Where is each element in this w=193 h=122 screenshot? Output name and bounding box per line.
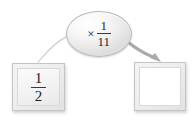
input-to-operator-connector (38, 37, 66, 62)
operator-fraction-numerator: 1 (100, 19, 107, 32)
operator-node: × 1 11 (66, 11, 132, 57)
operator-fraction: 1 11 (97, 19, 111, 48)
operator-expression: × 1 11 (87, 19, 110, 48)
input-fraction-numerator: 1 (35, 71, 43, 86)
output-box-inner[interactable] (139, 67, 181, 106)
diagram-canvas: × 1 11 1 2 (0, 0, 193, 122)
input-box: 1 2 (12, 63, 65, 111)
input-box-inner: 1 2 (17, 68, 60, 106)
arrowhead-icon (150, 53, 161, 62)
input-fraction-denominator: 2 (35, 89, 43, 104)
multiplication-sign: × (87, 27, 94, 40)
operator-to-output-connector (128, 42, 155, 58)
output-box[interactable] (134, 62, 186, 111)
operator-fraction-denominator: 11 (97, 35, 110, 48)
input-fraction: 1 2 (31, 71, 46, 104)
